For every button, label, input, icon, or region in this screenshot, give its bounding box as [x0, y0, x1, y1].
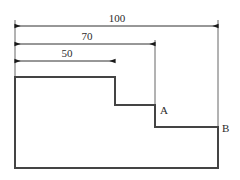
drawing-svg: 100 70 50 A B [0, 0, 240, 180]
point-label-a: A [160, 104, 168, 116]
dimension-label-70: 70 [82, 30, 94, 42]
stepped-profile-outline [15, 77, 218, 168]
dimension-label-100: 100 [109, 12, 126, 24]
dimension-overall-width: 100 [15, 12, 218, 26]
technical-drawing-canvas: 100 70 50 A B [0, 0, 240, 180]
dimension-label-50: 50 [62, 47, 74, 59]
dimension-first-step-width: 50 [15, 47, 115, 61]
point-label-b: B [222, 122, 229, 134]
extension-lines [15, 20, 218, 127]
dimension-second-step-width: 70 [15, 30, 155, 44]
